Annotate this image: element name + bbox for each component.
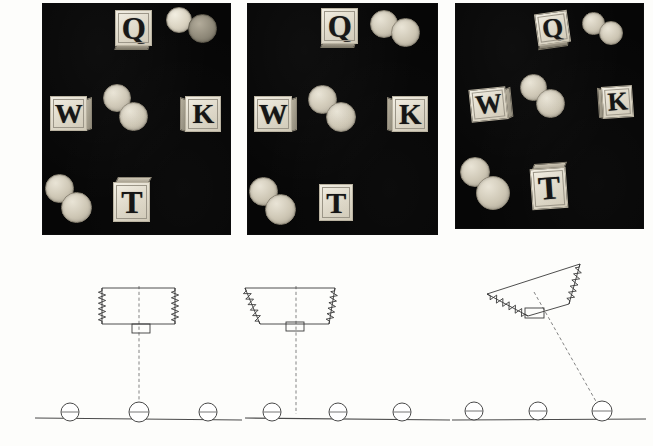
letter-block-t: T [530, 167, 569, 210]
block-letter-face: Q [115, 10, 152, 46]
letter-block-k: K [601, 85, 634, 119]
photo-panel: QWKT [43, 4, 230, 234]
letter-block-w: W [254, 96, 292, 132]
roller-symbol [393, 403, 411, 421]
letter-block-t: T [113, 182, 150, 222]
block-letter-face: Q [321, 8, 358, 44]
block-letter-face: K [185, 96, 221, 132]
block-letter-glyph: W [55, 100, 82, 128]
letter-block-w: W [50, 96, 87, 131]
block-letter-glyph: K [607, 88, 628, 115]
coin-disc [391, 18, 420, 47]
block-letter-glyph: K [399, 100, 421, 129]
block-letter-glyph: W [259, 100, 287, 129]
coin-disc [61, 192, 92, 223]
block-letter-face: Q [534, 10, 571, 46]
letter-block-q: Q [534, 10, 571, 46]
spring-mass-diagram [235, 262, 450, 442]
coin-disc [599, 21, 623, 45]
figure-root: QWKTQWKTQWKT [0, 0, 653, 446]
roller-symbol [465, 402, 483, 420]
spring-mass-diagram [30, 262, 245, 442]
letter-block-q: Q [115, 10, 152, 46]
ground-line [452, 419, 646, 420]
mass-body-outline [245, 288, 335, 324]
block-letter-face: K [392, 96, 428, 132]
letter-block-t: T [319, 184, 353, 221]
block-letter-glyph: T [121, 186, 142, 218]
block-letter-face: W [50, 96, 87, 131]
connector-tab [525, 308, 544, 318]
letter-block-w: W [468, 86, 508, 123]
roller-symbol [329, 403, 347, 421]
roller-symbol [129, 402, 149, 422]
connector-tab [132, 324, 150, 333]
coin-disc [476, 176, 510, 210]
block-letter-glyph: Q [540, 13, 564, 43]
block-letter-face: W [468, 86, 508, 123]
block-letter-glyph: K [192, 100, 213, 128]
spring-coil [243, 288, 260, 324]
photo-panel: QWKT [456, 4, 643, 228]
letter-block-q: Q [321, 8, 358, 44]
connector-tab [286, 322, 304, 331]
block-letter-glyph: Q [122, 13, 146, 44]
coin-disc [265, 194, 296, 225]
roller-symbol [199, 403, 217, 421]
letter-block-k: K [392, 96, 428, 132]
spring-mass-diagram [450, 256, 650, 442]
block-letter-face: T [530, 167, 569, 210]
roller-symbol [529, 402, 547, 420]
block-letter-glyph: Q [328, 11, 352, 42]
roller-symbol [61, 403, 79, 421]
block-letter-face: K [601, 85, 634, 119]
block-letter-glyph: T [326, 188, 345, 218]
roller-symbol [263, 403, 281, 421]
block-letter-glyph: W [474, 90, 503, 120]
roller-symbol [592, 401, 612, 421]
block-letter-face: T [319, 184, 353, 221]
block-letter-glyph: T [537, 171, 561, 205]
mass-body-outline [102, 288, 175, 324]
block-letter-face: W [254, 96, 292, 132]
coin-disc [326, 102, 356, 132]
letter-block-k: K [185, 96, 221, 132]
coin-disc [188, 14, 217, 43]
photo-panel: QWKT [248, 4, 437, 234]
coin-disc [536, 89, 565, 118]
coin-disc [119, 102, 148, 131]
block-letter-face: T [113, 182, 150, 222]
